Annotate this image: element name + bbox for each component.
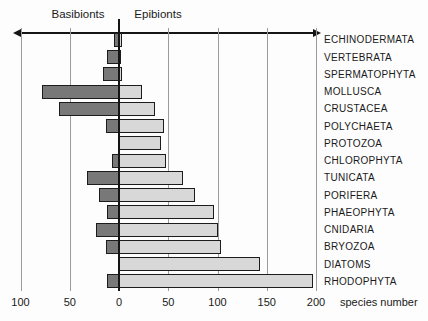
gridline [21,28,22,291]
category-label: PROTOZOA [324,138,382,149]
epibiont-bar [118,85,142,99]
gridline [267,28,268,291]
category-label: CNIDARIA [324,224,374,235]
epibiont-bar [118,223,218,237]
category-label: POLYCHAETA [324,121,393,132]
epibiont-bar [118,171,183,185]
basibiont-bar [42,85,120,99]
epibiont-bar [118,119,164,133]
epibiont-bar [118,136,161,150]
epibiont-bar [118,102,155,116]
x-tick-label: 100 [4,296,38,308]
category-label: PORIFERA [324,190,378,201]
category-label: MOLLUSCA [324,86,381,97]
epibiont-bar [118,257,260,271]
epibiont-bar [118,274,313,288]
epibiont-bar [118,205,214,219]
basibiont-bar [96,223,120,237]
epibiont-bar [118,240,221,254]
epibiont-bar [118,188,195,202]
x-tick-label: 50 [53,296,87,308]
category-label: CRUSTACEA [324,103,388,114]
x-tick-label: 200 [299,296,333,308]
axis-arrow-right-icon [313,29,321,37]
epibiosis-species-bar-chart: Basibionts Epibionts species number 1005… [0,0,428,321]
basibiont-bar [99,188,120,202]
x-tick-label: 0 [102,296,136,308]
epibiont-bar [118,154,166,168]
category-label: RHODOPHYTA [324,276,397,287]
category-label: TUNICATA [324,172,375,183]
category-label: PHAEOPHYTA [324,207,395,218]
x-tick-label: 100 [201,296,235,308]
x-axis-line [17,291,320,293]
category-label: ECHINODERMATA [324,34,414,45]
category-label: VERTEBRATA [324,52,392,63]
gridline [316,28,317,291]
basibiont-bar [87,171,120,185]
right-series-header: Epibionts [108,8,208,20]
category-label: CHLOROPHYTA [324,155,403,166]
zero-baseline [118,19,120,291]
category-label: SPERMATOPHYTA [324,69,416,80]
category-label: BRYOZOA [324,241,375,252]
x-tick-label: 150 [250,296,284,308]
gridline [70,28,71,291]
x-tick-label: 50 [151,296,185,308]
category-label: DIATOMS [324,259,371,270]
x-axis-title: species number [340,296,418,308]
basibiont-bar [59,102,120,116]
